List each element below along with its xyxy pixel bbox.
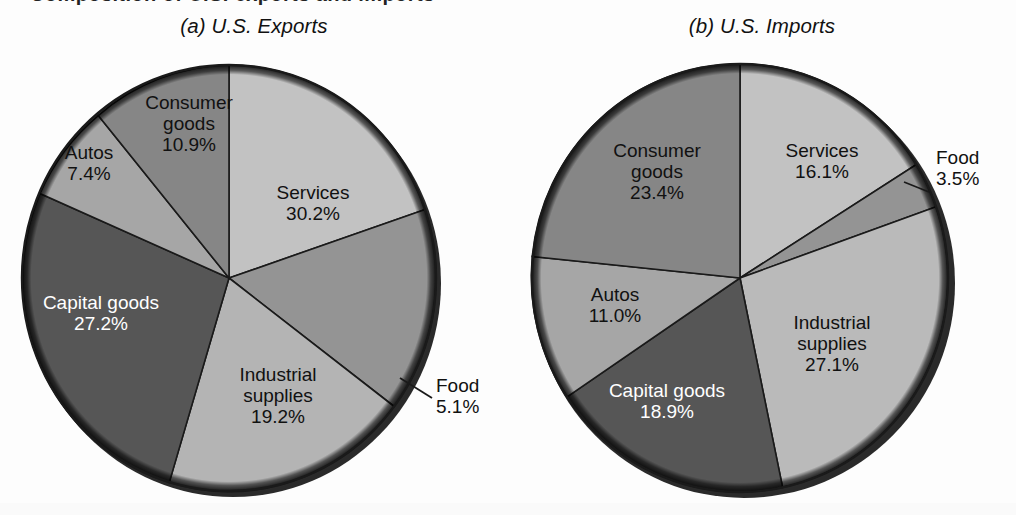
panel-us-imports: (b) U.S. Imports xyxy=(508,0,1016,515)
label-food-exports: Food 5.1% xyxy=(436,375,508,417)
label-industrial-name2-imports: supplies xyxy=(771,333,893,354)
label-autos-exports: Autos 7.4% xyxy=(46,142,132,184)
label-capital-goods-imports: Capital goods 18.9% xyxy=(592,380,742,422)
label-consumer-goods-imports: Consumer goods 23.4% xyxy=(593,140,721,203)
label-services-exports: Services 30.2% xyxy=(258,182,368,224)
pie-chart-exports: Services 30.2% Food 5.1% Industrial supp… xyxy=(0,0,508,515)
label-food-value-imports: 3.5% xyxy=(936,168,1012,189)
label-autos-imports: Autos 11.0% xyxy=(568,284,662,326)
label-capital-value-exports: 27.2% xyxy=(26,313,176,334)
label-autos-name-exports: Autos xyxy=(46,142,132,163)
label-services-value-imports: 16.1% xyxy=(766,161,878,182)
panel-us-exports: (a) U.S. Exports xyxy=(0,0,508,515)
label-services-value-exports: 30.2% xyxy=(258,203,368,224)
pie-chart-imports: Services 16.1% Food 3.5% Industrial supp… xyxy=(508,0,1016,515)
label-industrial-name1-imports: Industrial xyxy=(771,312,893,333)
label-autos-value-imports: 11.0% xyxy=(568,305,662,326)
label-services-name-exports: Services xyxy=(258,182,368,203)
label-autos-name-imports: Autos xyxy=(568,284,662,305)
pie-rim-shading-imports xyxy=(532,64,948,492)
label-consumer-name2-imports: goods xyxy=(593,161,721,182)
page-bottom-edge xyxy=(0,503,1016,515)
label-industrial-name2-exports: supplies xyxy=(218,385,338,406)
label-industrial-name1-exports: Industrial xyxy=(218,364,338,385)
label-consumer-value-exports: 10.9% xyxy=(129,134,249,155)
label-services-imports: Services 16.1% xyxy=(766,140,878,182)
label-capital-value-imports: 18.9% xyxy=(592,401,742,422)
pie-svg-imports xyxy=(508,0,1016,515)
pie-svg-exports xyxy=(0,0,508,515)
label-consumer-goods-exports: Consumer goods 10.9% xyxy=(129,92,249,155)
label-capital-name-exports: Capital goods xyxy=(26,292,176,313)
label-capital-goods-exports: Capital goods 27.2% xyxy=(26,292,176,334)
label-autos-value-exports: 7.4% xyxy=(46,163,132,184)
label-services-name-imports: Services xyxy=(766,140,878,161)
label-industrial-value-imports: 27.1% xyxy=(771,354,893,375)
label-consumer-name1-imports: Consumer xyxy=(593,140,721,161)
figure-two-pie-charts: Composition of U.S. exports and imports … xyxy=(0,0,1016,515)
label-food-imports: Food 3.5% xyxy=(936,147,1012,189)
label-industrial-supplies-imports: Industrial supplies 27.1% xyxy=(771,312,893,375)
label-consumer-name2-exports: goods xyxy=(129,113,249,134)
label-food-value-exports: 5.1% xyxy=(436,396,508,417)
label-capital-name-imports: Capital goods xyxy=(592,380,742,401)
label-industrial-supplies-exports: Industrial supplies 19.2% xyxy=(218,364,338,427)
label-industrial-value-exports: 19.2% xyxy=(218,406,338,427)
label-food-name-imports: Food xyxy=(936,147,1012,168)
label-consumer-name1-exports: Consumer xyxy=(129,92,249,113)
label-consumer-value-imports: 23.4% xyxy=(593,182,721,203)
label-food-name-exports: Food xyxy=(436,375,508,396)
